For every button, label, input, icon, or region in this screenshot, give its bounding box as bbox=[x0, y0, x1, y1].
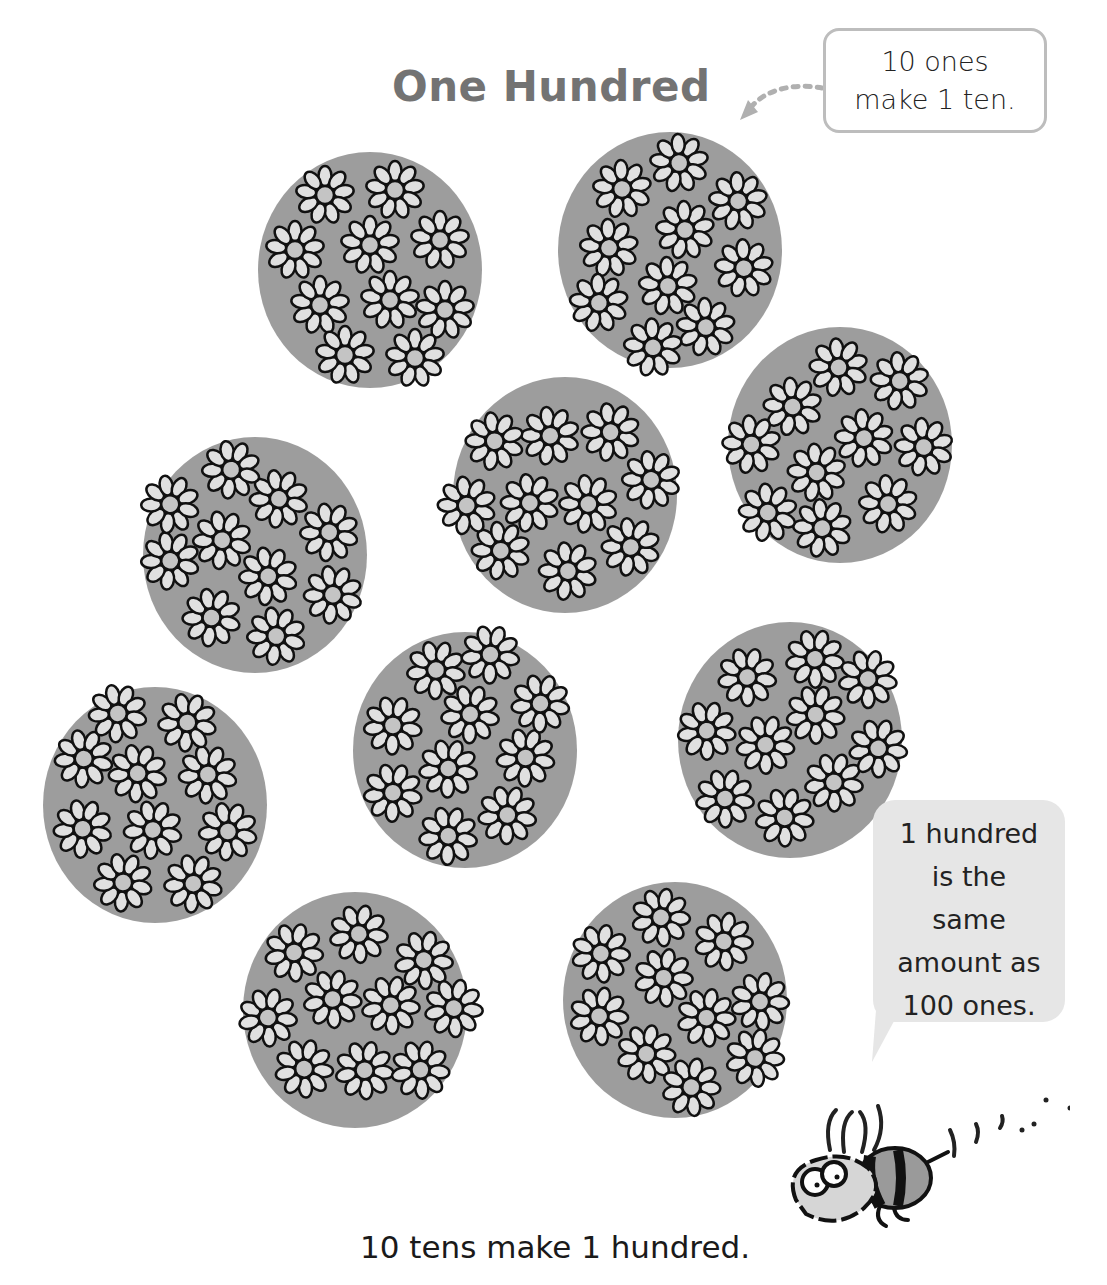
page-title: One Hundred bbox=[392, 62, 711, 111]
flower-cluster bbox=[335, 620, 595, 880]
callout-line-2: make 1 ten. bbox=[826, 81, 1044, 119]
speech-bubble: 1 hundred is the same amount as 100 ones… bbox=[873, 800, 1065, 1022]
bubble-line-4: amount as bbox=[873, 941, 1065, 984]
bubble-line-2: is the bbox=[873, 855, 1065, 898]
bubble-line-1: 1 hundred bbox=[873, 812, 1065, 855]
callout-box: 10 ones make 1 ten. bbox=[823, 28, 1047, 133]
flower-cluster bbox=[545, 870, 805, 1130]
flower-cluster bbox=[240, 140, 500, 400]
speech-bubble-tail bbox=[870, 1010, 910, 1065]
callout-line-1: 10 ones bbox=[826, 43, 1044, 81]
flower-cluster bbox=[225, 880, 485, 1140]
bee-icon bbox=[770, 1090, 1070, 1240]
caption: 10 tens make 1 hundred. bbox=[360, 1229, 750, 1265]
bubble-line-3: same bbox=[873, 898, 1065, 941]
flower-cluster bbox=[435, 365, 695, 625]
flower-cluster bbox=[710, 315, 970, 575]
